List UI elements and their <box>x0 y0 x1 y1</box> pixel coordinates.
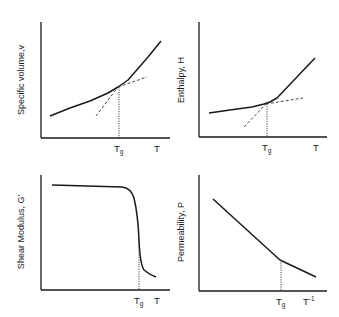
y-axis-label: Specific volume,v <box>16 44 26 115</box>
extrapolation-line <box>118 77 147 87</box>
panel-permeability: Permeability, P Tg T-1 <box>176 175 327 309</box>
figure-canvas: Specific volume,v Tg T Enthalpy, H Tg T … <box>0 0 339 317</box>
extrapolation-line <box>96 87 118 116</box>
y-axis-label: Permeability, P <box>176 202 186 262</box>
y-axis-label: Shear Modulus, G' <box>16 195 26 270</box>
tg-tick-label: Tg <box>262 142 272 155</box>
tg-tick-label: Tg <box>276 296 286 309</box>
x-axis-label: T-1 <box>303 295 315 307</box>
modulus-curve <box>52 185 156 277</box>
tg-tick-label: Tg <box>114 143 124 156</box>
panel-enthalpy: Enthalpy, H Tg T <box>176 22 327 155</box>
panel-shear-modulus: Shear Modulus, G' Tg T <box>16 175 170 308</box>
x-axis-label: T <box>154 143 160 154</box>
panel-specific-volume: Specific volume,v Tg T <box>16 22 170 156</box>
x-axis-label: T <box>313 142 319 153</box>
permeability-curve <box>213 199 316 277</box>
tg-tick-label: Tg <box>134 295 144 308</box>
enthalpy-curve <box>209 58 315 113</box>
y-axis-label: Enthalpy, H <box>176 57 186 103</box>
volume-curve <box>50 41 161 116</box>
x-axis-label: T <box>154 295 160 306</box>
